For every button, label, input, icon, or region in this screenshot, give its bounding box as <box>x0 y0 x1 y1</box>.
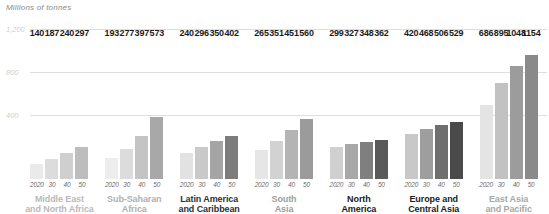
bars-row: 240296350402 <box>172 39 247 179</box>
x-axis-ticks: 2020304050 <box>172 181 247 191</box>
bar[interactable] <box>45 159 58 179</box>
bar[interactable] <box>300 119 313 179</box>
bar-slot[interactable]: 895 <box>495 39 508 179</box>
bar[interactable] <box>180 153 193 179</box>
x-tick-label: 50 <box>375 181 388 191</box>
group-caption: North America <box>321 194 396 214</box>
x-tick-label: 40 <box>510 181 523 191</box>
bar-slot[interactable]: 187 <box>45 39 58 179</box>
x-tick-label: 2020 <box>255 181 268 191</box>
bar[interactable] <box>195 147 208 179</box>
bar-slot[interactable]: 468 <box>420 39 433 179</box>
bar[interactable] <box>420 129 433 179</box>
bar-slot[interactable]: 140 <box>30 39 43 179</box>
x-tick-label: 30 <box>270 181 283 191</box>
bar-value-label: 468 <box>419 28 433 38</box>
bar-slot[interactable]: 362 <box>375 39 388 179</box>
bar-value-label: 240 <box>60 28 74 38</box>
bar[interactable] <box>480 105 493 179</box>
bar[interactable] <box>210 141 223 179</box>
bar-slot[interactable]: 1154 <box>525 39 538 179</box>
bar-slot[interactable]: 348 <box>360 39 373 179</box>
bar-value-label: 296 <box>194 28 208 38</box>
bar-slot[interactable]: 451 <box>285 39 298 179</box>
x-tick-label: 30 <box>345 181 358 191</box>
bar-group: 1932773975732020304050Sub-Saharan Africa <box>97 18 172 214</box>
bar-slot[interactable]: 402 <box>225 39 238 179</box>
bar-slot[interactable]: 297 <box>75 39 88 179</box>
bar[interactable] <box>255 150 268 179</box>
bar-slot[interactable]: 686 <box>480 39 493 179</box>
bar-chart: Millions of tonnes 4008001,200 140187240… <box>0 0 549 214</box>
x-tick-label: 40 <box>360 181 373 191</box>
bar-slot[interactable]: 265 <box>255 39 268 179</box>
bar-slot[interactable]: 506 <box>435 39 448 179</box>
x-tick-label: 30 <box>45 181 58 191</box>
bar-slot[interactable]: 327 <box>345 39 358 179</box>
x-tick-label: 40 <box>60 181 73 191</box>
bar-slot[interactable]: 299 <box>330 39 343 179</box>
x-axis-ticks: 2020304050 <box>396 181 471 191</box>
bar[interactable] <box>285 130 298 179</box>
bar-slot[interactable]: 296 <box>195 39 208 179</box>
x-tick-label: 50 <box>75 181 88 191</box>
bar-slot[interactable]: 277 <box>120 39 133 179</box>
x-tick-label: 50 <box>525 181 538 191</box>
bar-slot[interactable]: 420 <box>405 39 418 179</box>
x-tick-label: 50 <box>150 181 163 191</box>
bar-slot[interactable]: 350 <box>210 39 223 179</box>
x-axis-ticks: 2020304050 <box>22 181 97 191</box>
x-axis-ticks: 2020304050 <box>97 181 172 191</box>
bar[interactable] <box>495 83 508 179</box>
bars-row: 265351451560 <box>247 39 322 179</box>
bar[interactable] <box>105 158 118 179</box>
bar[interactable] <box>510 66 523 179</box>
bar[interactable] <box>450 122 463 179</box>
bar-value-label: 397 <box>135 28 149 38</box>
bar[interactable] <box>270 141 283 179</box>
bar-value-label: 240 <box>179 28 193 38</box>
bar[interactable] <box>60 153 73 179</box>
bar[interactable] <box>525 55 538 179</box>
bar[interactable] <box>75 147 88 179</box>
bar-slot[interactable]: 529 <box>450 39 463 179</box>
bar[interactable] <box>405 134 418 179</box>
bar[interactable] <box>375 140 388 179</box>
bar[interactable] <box>330 147 343 179</box>
bar[interactable] <box>150 117 163 179</box>
bar-slot[interactable]: 240 <box>60 39 73 179</box>
bars-row: 299327348362 <box>321 39 396 179</box>
group-caption: Sub-Saharan Africa <box>97 194 172 214</box>
bar-slot[interactable]: 193 <box>105 39 118 179</box>
bar-group: 2993273483622020304050North America <box>321 18 396 214</box>
bar-value-label: 277 <box>120 28 134 38</box>
bar[interactable] <box>360 142 373 179</box>
bar[interactable] <box>345 144 358 179</box>
x-tick-label: 40 <box>135 181 148 191</box>
bar-slot[interactable]: 573 <box>150 39 163 179</box>
group-caption: Middle East and North Africa <box>22 194 97 214</box>
bar[interactable] <box>120 149 133 179</box>
bar[interactable] <box>225 136 238 179</box>
bar-slot[interactable]: 560 <box>300 39 313 179</box>
x-tick-label: 2020 <box>30 181 43 191</box>
x-tick-label: 40 <box>435 181 448 191</box>
gridline-label: 800 <box>6 67 19 76</box>
bar-slot[interactable]: 1048 <box>510 39 523 179</box>
bar[interactable] <box>435 125 448 179</box>
x-axis-ticks: 2020304050 <box>471 181 546 191</box>
x-tick-label: 40 <box>285 181 298 191</box>
bar-slot[interactable]: 397 <box>135 39 148 179</box>
bar-value-label: 1154 <box>522 28 541 38</box>
bar[interactable] <box>135 136 148 179</box>
bar-slot[interactable]: 240 <box>180 39 193 179</box>
bar-value-label: 402 <box>224 28 238 38</box>
bar-value-label: 297 <box>75 28 89 38</box>
bar[interactable] <box>30 164 43 179</box>
bars-row: 68689510481154 <box>471 39 546 179</box>
bar-slot[interactable]: 351 <box>270 39 283 179</box>
x-tick-label: 30 <box>420 181 433 191</box>
x-tick-label: 2020 <box>405 181 418 191</box>
x-tick-label: 40 <box>210 181 223 191</box>
bar-value-label: 327 <box>344 28 358 38</box>
